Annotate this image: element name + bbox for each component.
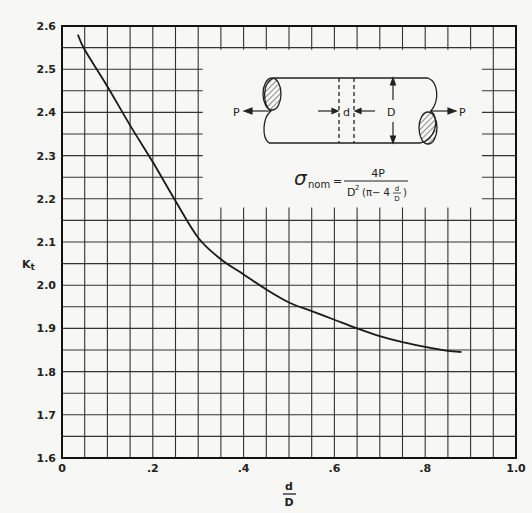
load-label-right: P [459,106,466,119]
y-tick-label: 2.4 [37,106,57,119]
svg-text:): ) [403,187,407,198]
svg-text:d: d [395,185,399,193]
svg-text:4P: 4P [371,167,385,180]
y-tick-label: 2.3 [37,150,57,163]
svg-text:d: d [285,480,293,493]
x-axis-label: d D [283,480,296,509]
shaft-icon [263,78,437,144]
x-tick-labels: 0.2.4.6.81.0 [58,462,526,475]
y-tick-label: 1.7 [37,409,57,422]
svg-text:Kt: Kt [22,258,36,272]
y-tick-label: 2.2 [37,193,57,206]
x-tick-label: .4 [238,462,250,475]
svg-text:2: 2 [355,184,359,192]
y-tick-label: 1.6 [37,452,57,465]
y-tick-label: 1.9 [37,322,57,335]
x-tick-label: 1.0 [506,462,526,475]
y-tick-labels: 1.61.71.81.92.02.12.22.32.42.52.6 [37,20,57,465]
grid-lines [62,26,516,458]
inset-diagram: P P d D σ nom = 4P D 2 (π− 4 d D ) [233,78,466,203]
shaft-diameter-label: D [387,106,395,119]
x-tick-label: .2 [147,462,159,475]
svg-text:nom: nom [308,179,330,190]
svg-text:D: D [284,496,293,509]
y-tick-label: 1.8 [37,366,57,379]
y-tick-label: 2.5 [37,63,57,76]
svg-text:σ: σ [294,166,308,190]
svg-text:D: D [394,195,399,203]
svg-text:=: = [333,175,342,188]
x-tick-label: .8 [419,462,431,475]
y-tick-label: 2.0 [37,279,57,292]
y-axis-label: Kt [22,258,36,272]
load-label-left: P [233,106,240,119]
y-tick-label: 2.1 [37,236,57,249]
x-tick-label: .6 [328,462,340,475]
hole-diameter-label: d [343,106,350,119]
nominal-stress-formula: σ nom = 4P D 2 (π− 4 d D ) [294,166,408,203]
svg-text:(π− 4: (π− 4 [362,187,390,198]
stress-concentration-chart: 1.61.71.81.92.02.12.22.32.42.52.6 0.2.4.… [0,0,532,513]
x-tick-label: 0 [58,462,66,475]
y-tick-label: 2.6 [37,20,57,33]
